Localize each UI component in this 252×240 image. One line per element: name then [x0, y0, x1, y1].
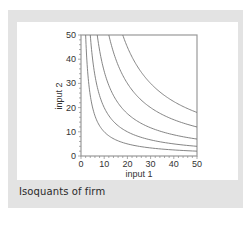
y-tick-label: 10 [66, 127, 76, 137]
isoquant-curve [90, 35, 197, 146]
y-axis-label: input 2 [54, 82, 64, 109]
x-tick-label: 10 [99, 159, 109, 169]
y-tick-label: 0 [71, 151, 76, 161]
figure-caption: Isoquants of firm [19, 186, 105, 197]
y-tick-label: 30 [66, 78, 76, 88]
isoquant-curve [109, 35, 197, 127]
isoquant-curves [86, 35, 197, 151]
y-tick-label: 50 [66, 30, 76, 40]
x-axis-label: input 1 [125, 169, 152, 179]
x-tick-label: 50 [192, 159, 202, 169]
x-tick-label: 40 [169, 159, 179, 169]
isoquant-curve [97, 35, 197, 139]
isoquant-curve [86, 35, 197, 151]
x-tick-label: 20 [122, 159, 132, 169]
y-tick-label: 40 [66, 54, 76, 64]
x-tick-label: 0 [78, 159, 83, 169]
x-tick-label: 30 [146, 159, 156, 169]
isoquant-curve [123, 35, 197, 112]
y-tick-label: 20 [66, 103, 76, 113]
axes [81, 35, 197, 156]
